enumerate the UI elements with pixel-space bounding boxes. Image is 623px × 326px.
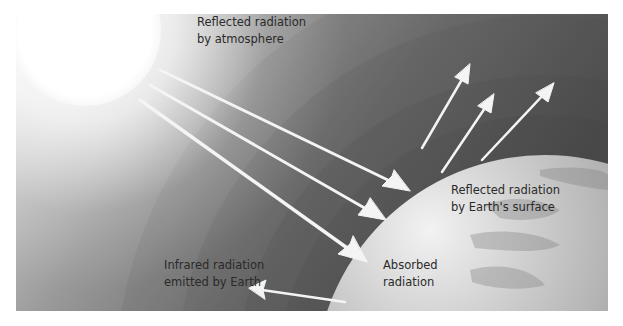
label-absorbed-radiation: Absorbed radiation: [383, 257, 438, 291]
greenhouse-radiation-diagram: Reflected radiation by atmosphere Reflec…: [16, 14, 608, 311]
label-reflected-by-atmosphere: Reflected radiation by atmosphere: [197, 14, 306, 48]
label-reflected-by-earth-surface: Reflected radiation by Earth's surface: [451, 182, 560, 216]
label-infrared-emitted: Infrared radiation emitted by Earth: [164, 257, 264, 291]
